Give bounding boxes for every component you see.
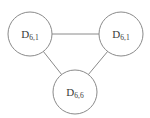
- diagram-canvas: D6,1 D6,1 D6,6: [0, 0, 150, 118]
- node-bottom-label-sub: 6,6: [74, 91, 84, 100]
- edge-group: [43, 34, 108, 75]
- edge-top-left-to-bottom: [43, 51, 62, 75]
- node-top-right[interactable]: D6,1: [99, 12, 143, 56]
- node-top-left[interactable]: D6,1: [8, 12, 52, 56]
- node-bottom[interactable]: D6,6: [53, 70, 97, 114]
- edge-top-right-to-bottom: [88, 51, 108, 75]
- node-top-left-label-base: D: [21, 28, 29, 40]
- graph-figure: D6,1 D6,1 D6,6: [0, 0, 150, 118]
- node-top-right-label-base: D: [112, 28, 120, 40]
- node-bottom-label-base: D: [66, 86, 74, 98]
- node-top-right-label-sub: 6,1: [120, 33, 130, 42]
- node-top-left-label-sub: 6,1: [29, 33, 39, 42]
